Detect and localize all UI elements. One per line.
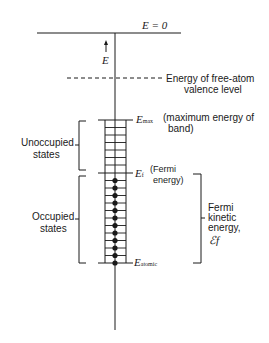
energy-axis-label: E (102, 55, 109, 65)
emax-desc-1: (maximum energy of (163, 113, 254, 123)
zero-energy-label: E = 0 (142, 20, 167, 30)
occupied-bracket (75, 176, 86, 263)
emax-desc-2: band) (168, 124, 194, 134)
unoccupied-label-1: Unoccupied (21, 138, 74, 148)
fermi-ke-symbol: ℰf (209, 235, 219, 245)
atomic-energy-label: Eatomic (134, 257, 157, 269)
unoccupied-bracket (75, 121, 86, 170)
emax-label: Emax (136, 114, 153, 126)
occupied-label-2: states (40, 224, 67, 234)
fermi-desc-2: energy) (153, 175, 184, 185)
fermi-energy-label: Ef (135, 168, 144, 180)
fermi-desc-1: (Fermi (150, 164, 176, 174)
unoccupied-label-2: states (33, 150, 60, 160)
free-atom-label-2: valence level (184, 85, 242, 95)
fermi-ke-label-3: energy, (208, 223, 241, 233)
arrow-head-icon (104, 40, 108, 45)
occupied-label-1: Occupied (32, 212, 74, 222)
fermi-kinetic-bracket (193, 174, 205, 263)
free-atom-label-1: Energy of free-atom (166, 74, 254, 84)
